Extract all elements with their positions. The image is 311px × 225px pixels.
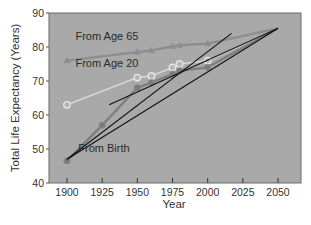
series-label: From Birth — [78, 142, 129, 154]
x-axis-title: Year — [162, 198, 185, 210]
filled-circle-marker — [204, 64, 210, 70]
x-tick-label: 2050 — [266, 186, 290, 198]
x-tick-label: 1975 — [161, 186, 185, 198]
y-tick-label: 70 — [32, 75, 44, 87]
x-tick-label: 2000 — [196, 186, 220, 198]
series-label: From Age 65 — [75, 30, 138, 42]
x-tick-label: 1900 — [55, 186, 79, 198]
open-circle-marker — [134, 74, 140, 80]
y-tick-label: 40 — [32, 177, 44, 189]
x-tick-label: 1925 — [90, 186, 114, 198]
y-tick-label: 90 — [32, 7, 44, 19]
open-circle-marker — [148, 73, 154, 79]
filled-circle-marker — [134, 85, 140, 91]
y-tick-label: 60 — [32, 109, 44, 121]
y-tick-label: 50 — [32, 143, 44, 155]
open-circle-marker — [169, 64, 175, 70]
x-tick-label: 1950 — [126, 186, 150, 198]
open-circle-marker — [176, 61, 182, 67]
y-tick-label: 80 — [32, 41, 44, 53]
open-circle-marker — [64, 102, 70, 108]
life-expectancy-chart: 405060708090 190019251950197520002025205… — [0, 0, 311, 225]
series-label: From Age 20 — [75, 57, 138, 69]
x-tick-label: 2025 — [231, 186, 255, 198]
y-axis: 405060708090 — [32, 7, 49, 189]
filled-circle-marker — [99, 122, 105, 128]
y-axis-title: Total Life Expectancy (Years) — [9, 24, 21, 173]
